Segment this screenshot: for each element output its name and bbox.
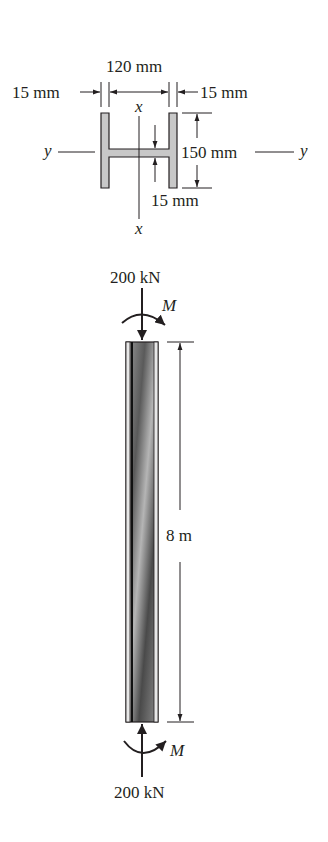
length-label: 8 m	[166, 526, 192, 545]
bottom-load-label: 200 kN	[114, 783, 165, 802]
axis-x-bottom-label: x	[134, 219, 143, 238]
top-moment-label: M	[161, 296, 177, 315]
axis-x-top-label: x	[134, 97, 143, 116]
column-body	[126, 342, 158, 722]
axis-y-left-label: y	[42, 141, 52, 160]
column-elevation: 200 kN M 8 m M 200 kN	[110, 268, 194, 802]
height-label: 150 mm	[181, 143, 237, 162]
top-moment-arrow	[122, 314, 165, 325]
cross-section: 120 mm 15 mm 15 mm x x y y 15 mm 150 mm	[12, 57, 308, 238]
bottom-moment-arrow	[124, 741, 166, 753]
left-flange-label: 15 mm	[12, 83, 60, 102]
web-thickness-label: 15 mm	[151, 191, 199, 210]
axis-y-right-label: y	[298, 141, 308, 160]
top-load-label: 200 kN	[110, 268, 161, 287]
width-label: 120 mm	[106, 57, 162, 76]
column-diagram: 120 mm 15 mm 15 mm x x y y 15 mm 150 mm	[0, 0, 328, 842]
bottom-moment-label: M	[169, 741, 185, 760]
right-flange-label: 15 mm	[200, 83, 248, 102]
